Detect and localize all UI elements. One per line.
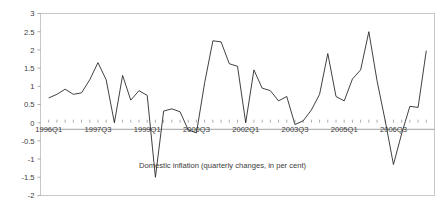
chart-annotations: Domestic inflation (quarterly changes, i… (139, 161, 307, 170)
y-tick-label: 0 (30, 119, 34, 128)
chart-background (0, 0, 442, 221)
y-tick-label: 2 (30, 46, 34, 55)
y-tick-label: -2 (28, 191, 35, 200)
y-tick-label: 2.5 (24, 28, 35, 37)
y-tick-label: 3 (30, 9, 34, 18)
y-tick-label: -1 (28, 155, 35, 164)
chart-container: 32.521.510.50-0.5-1-1.5-2 1996Q11997Q319… (0, 0, 442, 221)
y-tick-label: 0.5 (24, 100, 35, 109)
x-tick-label: 1997Q3 (84, 125, 111, 134)
y-tick-label: -0.5 (21, 137, 34, 146)
y-tick-label: 1.5 (24, 64, 35, 73)
y-tick-label: -1.5 (21, 173, 34, 182)
domestic-inflation-line-chart: 32.521.510.50-0.5-1-1.5-2 1996Q11997Q319… (0, 0, 442, 221)
y-tick-label: 1 (30, 82, 34, 91)
series-caption: Domestic inflation (quarterly changes, i… (139, 161, 307, 170)
x-tick-label: 2003Q3 (281, 125, 308, 134)
x-tick-label: 2005Q1 (331, 125, 358, 134)
x-tick-label: 1999Q1 (134, 125, 161, 134)
x-tick-label: 1996Q1 (35, 125, 62, 134)
x-tick-label: 2002Q1 (232, 125, 259, 134)
